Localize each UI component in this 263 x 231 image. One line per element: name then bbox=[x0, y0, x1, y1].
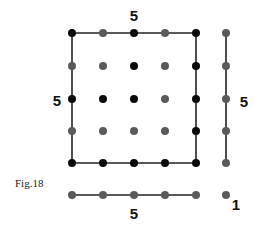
grid-dot bbox=[192, 95, 200, 103]
grid-dot bbox=[130, 159, 138, 167]
grid-dot bbox=[99, 95, 107, 103]
grid-dot bbox=[161, 95, 169, 103]
grid-dot bbox=[99, 159, 107, 167]
grid-dot bbox=[99, 127, 107, 135]
grid-dot bbox=[192, 62, 200, 70]
single-dot bbox=[222, 191, 230, 199]
right-column-dot bbox=[222, 95, 230, 103]
grid-dot bbox=[130, 95, 138, 103]
top-count-label: 5 bbox=[130, 8, 138, 23]
grid-dot bbox=[192, 29, 200, 37]
grid-dot bbox=[68, 159, 76, 167]
grid-dot bbox=[130, 127, 138, 135]
right-count-label: 5 bbox=[240, 94, 248, 109]
grid-dot bbox=[130, 29, 138, 37]
figure-18-diagram: 55551 Fig.18 bbox=[0, 0, 263, 231]
bottom-row-dot bbox=[192, 191, 200, 199]
right-column-dot bbox=[222, 29, 230, 37]
grid-dot bbox=[68, 62, 76, 70]
bottom-row-dot bbox=[68, 191, 76, 199]
right-column-dot bbox=[222, 62, 230, 70]
grid-dot bbox=[68, 127, 76, 135]
grid-dot bbox=[68, 29, 76, 37]
grid-dot bbox=[130, 62, 138, 70]
grid-dot bbox=[99, 29, 107, 37]
right-column-dot bbox=[222, 159, 230, 167]
grid-dot bbox=[99, 62, 107, 70]
grid-dot bbox=[68, 95, 76, 103]
grid-dot bbox=[161, 159, 169, 167]
grid-dot bbox=[192, 159, 200, 167]
grid-dot bbox=[192, 127, 200, 135]
grid-dot bbox=[161, 29, 169, 37]
bottom-count-label: 5 bbox=[130, 206, 138, 221]
bottom-row-dot bbox=[130, 191, 138, 199]
left-count-label: 5 bbox=[53, 93, 61, 108]
right-column-dot bbox=[222, 127, 230, 135]
bottom-row-dot bbox=[161, 191, 169, 199]
grid-dot bbox=[161, 62, 169, 70]
single-count-label: 1 bbox=[232, 197, 240, 212]
dot-grid-svg bbox=[0, 0, 263, 231]
grid-dot bbox=[161, 127, 169, 135]
bottom-row-dot bbox=[99, 191, 107, 199]
figure-caption: Fig.18 bbox=[15, 178, 43, 189]
